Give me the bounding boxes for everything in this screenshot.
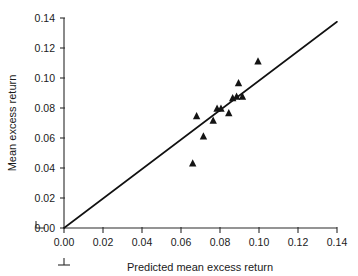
y-tick-label: 0.02: [35, 192, 56, 204]
data-point-marker: [193, 112, 200, 119]
x-tick-label: 0.14: [327, 236, 348, 248]
x-tick-label: 0.00: [54, 236, 75, 248]
x-axis-title: Predicted mean excess return: [127, 261, 273, 273]
x-tick-label: 0.08: [210, 236, 231, 248]
x-axis-ticks: 0.000.020.040.060.080.100.120.14: [54, 227, 348, 248]
data-point-group: [189, 57, 262, 166]
scatter-plot-figure: 0.000.020.040.060.080.100.120.14 0.000.0…: [0, 0, 358, 276]
y-tick-label: 0.10: [35, 72, 56, 84]
y-tick-label: 0.14: [35, 12, 56, 24]
y-tick-label: 0.06: [35, 132, 56, 144]
x-tick-label: 0.04: [132, 236, 153, 248]
data-point-marker: [225, 109, 232, 116]
y-tick-label: 0.12: [35, 42, 56, 54]
x-tick-label: 0.10: [249, 236, 270, 248]
y-axis-title: Mean excess return: [6, 75, 18, 172]
x-tick-label: 0.02: [93, 236, 114, 248]
data-point-marker: [235, 79, 242, 86]
data-point-marker: [189, 159, 196, 166]
y-axis-ticks: 0.000.020.040.060.080.100.120.14: [35, 12, 65, 234]
data-point-marker: [254, 57, 261, 64]
data-point-marker: [200, 132, 207, 139]
y-tick-label: 0.04: [35, 162, 56, 174]
x-tick-label: 0.12: [288, 236, 309, 248]
identity-reference-line: [64, 22, 337, 228]
plot-canvas: 0.000.020.040.060.080.100.120.14 0.000.0…: [0, 0, 358, 276]
x-tick-label: 0.06: [171, 236, 192, 248]
y-tick-label: 0.08: [35, 102, 56, 114]
